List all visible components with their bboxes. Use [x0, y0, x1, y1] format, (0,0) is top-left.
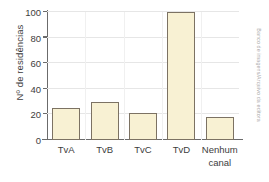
- x-axis-category-label-line1: TvD: [173, 144, 190, 155]
- x-axis-category-label: Nenhumcanal: [201, 144, 239, 169]
- x-axis-category-label: TvD: [162, 144, 200, 157]
- bar: [167, 12, 195, 140]
- plot-inner: 020406080100: [47, 12, 239, 140]
- x-axis-category-label: TvC: [124, 144, 162, 157]
- x-axis-category-label-line1: Nenhum: [202, 144, 238, 155]
- x-axis-category-label: TvB: [85, 144, 123, 157]
- x-axis-category-label-line1: TvA: [58, 144, 75, 155]
- y-axis-tick-label: 100: [25, 7, 41, 18]
- y-axis-title: Nº de residências: [14, 8, 25, 118]
- bar: [129, 113, 157, 140]
- y-axis-tick-label: 20: [30, 109, 41, 120]
- image-credit-text: Banco de imagens/Arquivo da editora: [256, 5, 262, 145]
- x-axis-category-label-line1: TvC: [134, 144, 151, 155]
- x-axis-category-labels: TvATvBTvCTvDNenhumcanal: [47, 144, 239, 180]
- x-axis-category-label-line1: TvB: [96, 144, 113, 155]
- bar: [206, 117, 234, 140]
- x-axis-category-label: TvA: [47, 144, 85, 157]
- bar-chart: Nº de residências 020406080100 TvATvBTvC…: [0, 0, 269, 182]
- bar-slot: [162, 12, 200, 140]
- plot-area: 020406080100: [47, 12, 239, 140]
- y-axis-tick-label: 0: [36, 135, 41, 146]
- bar-slot: [85, 12, 123, 140]
- y-axis-tick-label: 80: [30, 32, 41, 43]
- bar: [52, 108, 80, 140]
- bar-slot: [47, 12, 85, 140]
- y-axis-tick-label: 40: [30, 83, 41, 94]
- x-axis-category-label-line2: canal: [201, 157, 239, 170]
- bar: [91, 102, 119, 140]
- bars-layer: [47, 12, 239, 140]
- bar-slot: [201, 12, 239, 140]
- bar-slot: [124, 12, 162, 140]
- y-axis-tick-label: 60: [30, 58, 41, 69]
